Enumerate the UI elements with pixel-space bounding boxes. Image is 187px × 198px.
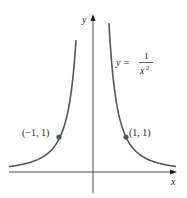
- curve-right-branch: [109, 23, 176, 166]
- point-neg1-1: [56, 134, 61, 139]
- point-label-neg1-1: (−1, 1): [22, 127, 49, 139]
- function-denominator-exponent: 2: [146, 64, 149, 71]
- point-label-1-1: (1, 1): [129, 127, 151, 139]
- y-axis-label: y: [81, 14, 87, 25]
- x-axis-label: x: [170, 176, 176, 187]
- x-axis-arrow-icon: [170, 170, 177, 175]
- function-denominator-base: x: [139, 66, 145, 76]
- curve-left-branch: [9, 40, 76, 166]
- function-lhs: y =: [115, 57, 130, 68]
- function-label: y = 1 x 2: [115, 51, 153, 76]
- function-numerator: 1: [144, 51, 149, 61]
- graph-of-reciprocal-square: (−1, 1) (1, 1) y x y = 1 x 2: [0, 0, 187, 198]
- point-1-1: [123, 134, 128, 139]
- y-axis-arrow-icon: [91, 14, 96, 21]
